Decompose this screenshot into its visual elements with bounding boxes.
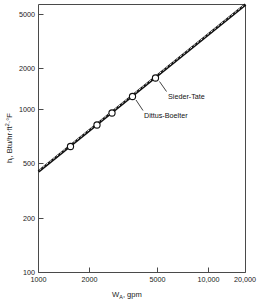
y-tick-label-2000: 2000: [19, 64, 35, 73]
data-point: [94, 122, 100, 128]
data-point: [109, 110, 115, 116]
svg-text:hi, Btu/hr·ft2·°F: hi, Btu/hr·ft2·°F: [4, 113, 15, 163]
y-axis-title-tail: ·°F: [5, 113, 14, 124]
x-tick-label-5000: 5000: [150, 275, 166, 284]
y-tick-label-500: 500: [23, 159, 35, 168]
x-tick-label-10000: 10,000: [198, 275, 220, 284]
data-point: [129, 93, 135, 99]
y-tick-label-200: 200: [23, 214, 35, 223]
data-point: [152, 75, 158, 81]
sieder-tate-label: Sieder-Tate: [168, 92, 205, 101]
y-axis-title-rest: , Btu/hr·ft: [5, 125, 14, 157]
figure-background: [0, 0, 263, 303]
chart-canvas: 5000 2000 1000 500 200 100 1000 2000 500…: [0, 0, 263, 303]
data-point: [67, 143, 73, 149]
x-tick-label-20000: 20,000: [234, 275, 256, 284]
y-tick-label-1000: 1000: [19, 105, 35, 114]
dittus-boelter-label: Dittus-Boelter: [144, 111, 188, 120]
svg-text:WA, gpm: WA, gpm: [112, 290, 142, 300]
x-axis-title-rest: , gpm: [123, 290, 142, 299]
x-tick-label-1000: 1000: [31, 275, 47, 284]
x-axis-title: WA, gpm: [112, 290, 142, 300]
y-tick-label-5000: 5000: [19, 10, 35, 19]
chart-figure: 5000 2000 1000 500 200 100 1000 2000 500…: [0, 0, 263, 303]
x-tick-label-2000: 2000: [82, 275, 98, 284]
y-axis-title: hi, Btu/hr·ft2·°F: [4, 113, 15, 163]
